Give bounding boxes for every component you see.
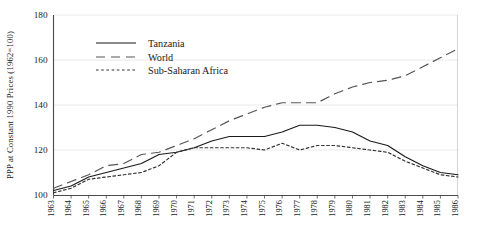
x-tick-label-1982: 1982 (381, 200, 390, 217)
x-tick-label-1964: 1964 (64, 199, 73, 217)
y-tick-label-160: 160 (34, 55, 48, 65)
x-tick-label-1973: 1973 (222, 200, 231, 217)
y-tick-label-140: 140 (34, 100, 48, 110)
legend-label-sub-saharan-africa: Sub-Saharan Africa (148, 65, 229, 76)
x-tick-label-1985: 1985 (433, 200, 442, 217)
x-axis-tick-labels: 1963196419651966196719681969197019711972… (47, 199, 461, 217)
x-tick-label-1984: 1984 (416, 199, 425, 217)
chart-svg: 100120140160180 196319641965196619671968… (0, 0, 477, 242)
y-tick-label-180: 180 (34, 10, 48, 20)
x-tick-label-1975: 1975 (258, 200, 267, 217)
series-line-tanzania (54, 125, 459, 190)
x-tick-label-1974: 1974 (240, 199, 249, 217)
x-tick-label-1983: 1983 (398, 200, 407, 217)
x-tick-label-1965: 1965 (82, 200, 91, 217)
x-tick-label-1976: 1976 (275, 200, 284, 217)
x-tick-label-1963: 1963 (47, 200, 56, 217)
x-tick-label-1977: 1977 (293, 200, 302, 217)
x-tick-label-1969: 1969 (152, 200, 161, 217)
x-tick-label-1967: 1967 (117, 200, 126, 217)
y-axis-tick-labels: 100120140160180 (34, 10, 48, 200)
y-tick-label-120: 120 (34, 145, 48, 155)
chart-figure: 100120140160180 196319641965196619671968… (0, 0, 477, 242)
y-tick-label-100: 100 (34, 190, 48, 200)
series-line-sub-saharan-africa (54, 143, 459, 193)
x-tick-label-1968: 1968 (134, 200, 143, 217)
x-tick-label-1970: 1970 (170, 200, 179, 217)
legend-label-tanzania: Tanzania (148, 38, 185, 49)
x-tick-label-1966: 1966 (99, 200, 108, 217)
legend-label-world: World (148, 52, 173, 63)
x-tick-label-1972: 1972 (205, 200, 214, 217)
x-tick-label-1979: 1979 (328, 200, 337, 217)
chart-legend: Tanzania World Sub-Saharan Africa (96, 38, 229, 76)
x-tick-label-1981: 1981 (363, 200, 372, 217)
x-tick-label-1978: 1978 (310, 200, 319, 217)
grid-lines (54, 15, 459, 150)
x-tick-label-1971: 1971 (187, 200, 196, 217)
x-tick-label-1980: 1980 (345, 200, 354, 217)
y-axis-title: PPP at Constant 1990 Prices (1962=100) (5, 31, 15, 179)
x-tick-label-1986: 1986 (451, 200, 460, 217)
